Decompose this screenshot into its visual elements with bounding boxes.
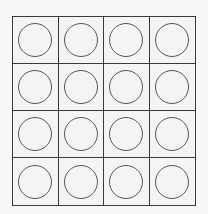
circle-shape — [18, 165, 52, 199]
circle-shape — [18, 23, 52, 57]
grid-cell-r4-c4 — [150, 158, 196, 205]
circle-shape — [64, 70, 98, 104]
circle-shape — [64, 117, 98, 151]
grid-cell-r2-c4 — [150, 64, 196, 111]
circle-shape — [155, 70, 189, 104]
grid-cell-r2-c2 — [59, 64, 105, 111]
circle-shape — [109, 165, 143, 199]
grid-cell-r2-c3 — [104, 64, 150, 111]
circle-grid — [12, 16, 196, 206]
circle-shape — [64, 165, 98, 199]
circle-shape — [155, 117, 189, 151]
circle-shape — [109, 23, 143, 57]
circle-shape — [155, 23, 189, 57]
circle-shape — [18, 70, 52, 104]
circle-shape — [109, 70, 143, 104]
grid-cell-r1-c2 — [59, 17, 105, 64]
grid-cell-r3-c3 — [104, 111, 150, 158]
grid-cell-r3-c1 — [13, 111, 59, 158]
grid-cell-r4-c1 — [13, 158, 59, 205]
grid-cell-r2-c1 — [13, 64, 59, 111]
grid-cell-r4-c2 — [59, 158, 105, 205]
circle-shape — [18, 117, 52, 151]
grid-cell-r1-c4 — [150, 17, 196, 64]
grid-cell-r3-c2 — [59, 111, 105, 158]
circle-shape — [109, 117, 143, 151]
grid-cell-r3-c4 — [150, 111, 196, 158]
grid-cell-r4-c3 — [104, 158, 150, 205]
grid-cell-r1-c1 — [13, 17, 59, 64]
circle-shape — [64, 23, 98, 57]
circle-shape — [155, 165, 189, 199]
grid-cell-r1-c3 — [104, 17, 150, 64]
